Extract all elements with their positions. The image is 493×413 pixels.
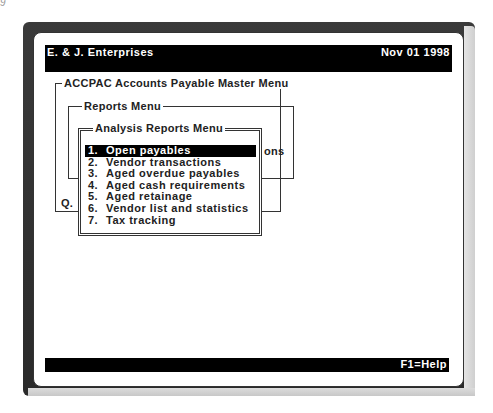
reports-menu-title: Reports Menu [82, 100, 163, 112]
analysis-menu-title: Analysis Reports Menu [93, 122, 225, 134]
menu-item-label: Aged cash requirements [106, 179, 245, 191]
page-number-mark: 9 [0, 0, 6, 8]
header-bar: E. & J. Enterprises Nov 01 1998 [45, 45, 452, 72]
menu-item-label: Aged overdue payables [106, 167, 240, 179]
analysis-menu-list: 1.Open payables 2.Vendor transactions 3.… [85, 145, 256, 226]
monitor-bezel-highlight-right [464, 26, 475, 392]
menu-item-label: Aged retainage [106, 190, 192, 202]
menu-item-label: Tax tracking [106, 214, 176, 226]
menu-item-label: Open payables [106, 144, 191, 156]
menu-item-tax-tracking[interactable]: 7.Tax tracking [85, 215, 256, 227]
menu-item-number: 7. [88, 215, 106, 227]
company-name: E. & J. Enterprises [47, 46, 154, 58]
system-date: Nov 01 1998 [381, 46, 450, 58]
menu-item-label: Vendor transactions [106, 156, 221, 168]
menu-item-number: 6. [88, 203, 106, 215]
master-menu-title: ACCPAC Accounts Payable Master Menu [62, 77, 290, 89]
reports-menu-item-partial[interactable]: ons [264, 145, 284, 157]
menu-item-label: Vendor list and statistics [106, 202, 249, 214]
help-key-hint[interactable]: F1=Help [400, 358, 447, 370]
master-menu-item-quit[interactable]: Q. [61, 197, 73, 209]
menu-item-number: 1. [88, 145, 106, 157]
status-bar: F1=Help [45, 358, 449, 372]
monitor-bezel-highlight-bottom [28, 388, 475, 396]
